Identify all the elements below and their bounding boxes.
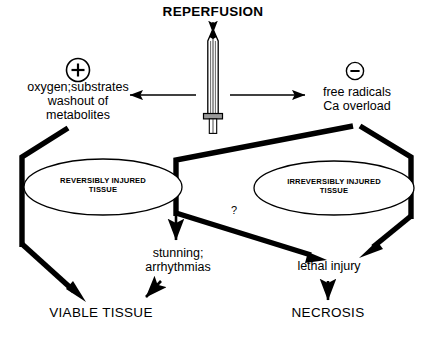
- necrosis-label: NECROSIS: [272, 305, 384, 320]
- plus-circle-icon: [67, 59, 90, 82]
- stunning-arrhythmias-label: stunning; arrhythmias: [128, 246, 228, 274]
- page-title: REPERFUSION: [0, 4, 426, 19]
- viable-tissue-label: VIABLE TISSUE: [18, 305, 184, 320]
- diagram-graphics: [0, 0, 426, 341]
- reversible-tissue-label: REVERSIBLY INJURED TISSUE: [24, 177, 182, 194]
- arrow-stunning-to-viable: [146, 281, 161, 297]
- lethal-injury-label: lethal injury: [281, 259, 377, 273]
- irreversible-tissue-label: IRREVERSIBLY INJURED TISSUE: [255, 178, 413, 195]
- arrow-reversible-to-viable: [22, 244, 86, 302]
- sword-icon: [204, 29, 223, 133]
- question-mark-label: ?: [227, 204, 241, 216]
- arrow-irreversible-to-lethal: [359, 216, 411, 258]
- beneficial-effects-label: oxygen;substrates washout of metabolites: [4, 80, 152, 122]
- detrimental-effects-label: free radicals Ca overload: [292, 85, 422, 113]
- diagram-canvas: REPERFUSION oxygen;substrates washout of…: [0, 0, 426, 341]
- minus-circle-icon: [346, 62, 363, 79]
